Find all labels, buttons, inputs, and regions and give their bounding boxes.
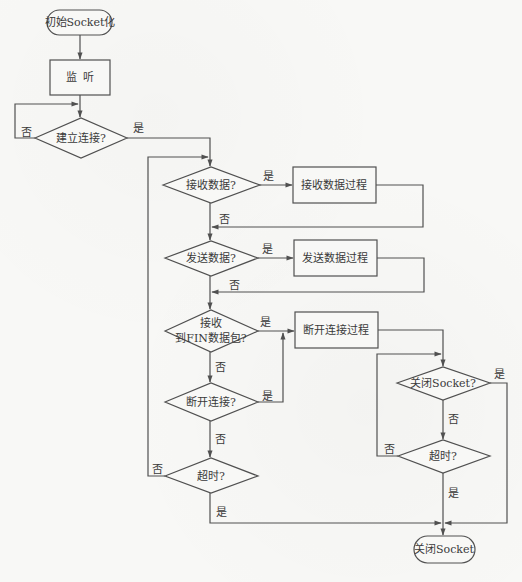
edge-label-timeout-yes: 是 xyxy=(216,506,227,519)
edge-timeout-yes xyxy=(210,493,441,523)
edge-label-send-yes: 是 xyxy=(262,243,273,256)
edge-label-disc-no: 否 xyxy=(215,433,226,446)
edge-label-close-no: 否 xyxy=(448,413,459,426)
node-fin-q-label-line1: 接收 xyxy=(200,316,222,330)
edge-label-connect-yes: 是 xyxy=(133,122,144,135)
edge-label-send-no: 否 xyxy=(229,279,240,292)
node-close-q-label: 关闭Socket? xyxy=(410,376,476,390)
node-disc-proc-label: 断开连接过程 xyxy=(303,323,369,337)
node-send-proc-label: 发送数据过程 xyxy=(302,251,368,265)
edge-label-timeout2-no: 否 xyxy=(384,443,395,456)
flowchart-svg: 初始Socket化 监 听 建立连接? 接收数据? 接收数据过程 发送数据? 发… xyxy=(0,0,522,582)
flowchart-canvas: 初始Socket化 监 听 建立连接? 接收数据? 接收数据过程 发送数据? 发… xyxy=(0,0,522,582)
edge-label-timeout-no: 否 xyxy=(152,463,163,476)
node-send-q-label: 发送数据? xyxy=(186,251,236,265)
node-listen-label: 监 听 xyxy=(66,71,95,84)
node-end-label: 关闭Socket xyxy=(414,542,474,556)
edge-discproc-close xyxy=(378,330,443,366)
node-recv-proc-label: 接收数据过程 xyxy=(301,178,367,192)
edge-label-recv-yes: 是 xyxy=(263,170,274,183)
node-shapes xyxy=(35,10,490,563)
node-connect-label: 建立连接? xyxy=(56,131,106,145)
edge-label-fin-no: 否 xyxy=(215,361,226,374)
edge-label-close-yes: 是 xyxy=(494,368,505,381)
edge-label-fin-yes: 是 xyxy=(260,316,271,329)
edge-label-timeout2-yes: 是 xyxy=(448,487,459,500)
node-fin-q-label-line2: 到FIN数据包? xyxy=(175,331,247,345)
node-timeout2-q-label: 超时? xyxy=(429,449,457,463)
node-timeout-q-label: 超时? xyxy=(197,469,225,483)
node-recv-q-label: 接收数据? xyxy=(186,178,236,192)
node-labels: 初始Socket化 监 听 建立连接? 接收数据? 接收数据过程 发送数据? 发… xyxy=(45,15,476,556)
edge-label-disc-yes: 是 xyxy=(262,390,273,403)
edge-label-recv-no: 否 xyxy=(219,213,230,226)
node-disc-q-label: 断开连接? xyxy=(186,395,236,409)
edge-label-connect-no: 否 xyxy=(21,126,32,139)
edge-connect-yes xyxy=(127,138,210,166)
node-start-label: 初始Socket化 xyxy=(45,15,116,29)
edge-timeout2-no-loop xyxy=(377,354,441,456)
